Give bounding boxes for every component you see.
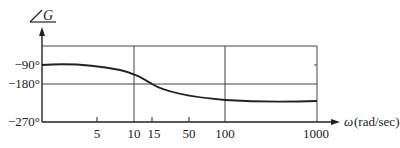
x-axis-arrow-icon — [331, 119, 340, 125]
x-tick-label-100: 100 — [215, 126, 235, 141]
y-axis-symbol: G — [43, 8, 53, 23]
x-tick-label-50: 50 — [183, 126, 196, 141]
y-axis-arrow-icon — [39, 27, 45, 36]
x-tick-label-10: 10 — [128, 126, 141, 141]
y-tick-label-minus-270: −270° — [8, 114, 40, 129]
x-tick-label-5: 5 — [94, 126, 101, 141]
phase-curve — [42, 64, 317, 101]
x-axis-symbol: ω — [344, 114, 353, 129]
bode-phase-chart: G −90° −180° −270° 5 10 15 50 100 1000 ω… — [0, 0, 400, 148]
y-tick-label-minus-180: −180° — [8, 76, 40, 91]
x-axis-unit: (rad/sec) — [354, 114, 399, 129]
x-tick-label-1000: 1000 — [303, 126, 329, 141]
y-tick-label-minus-90: −90° — [14, 57, 40, 72]
x-tick-label-15: 15 — [148, 126, 161, 141]
y-axis-title: G — [30, 8, 56, 23]
angle-symbol-icon — [30, 10, 42, 22]
